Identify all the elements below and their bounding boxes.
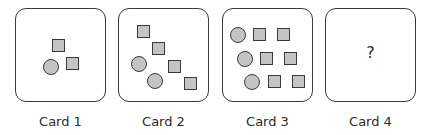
square-shape [268,75,281,88]
circle-shape [230,27,246,43]
square-shape [277,28,290,41]
square-shape [184,77,197,90]
question-mark: ? [326,43,415,62]
circle-shape [244,74,260,90]
card-4: ? [325,8,416,102]
square-shape [292,75,305,88]
circle-shape [43,59,59,75]
square-shape [284,52,297,65]
square-shape [52,39,65,52]
square-shape [253,28,266,41]
card-4-label: Card 4 [325,114,416,129]
square-shape [260,52,273,65]
square-shape [137,25,150,38]
square-shape [66,57,79,70]
card-3-label: Card 3 [222,114,313,129]
circle-shape [237,51,253,67]
card-1-label: Card 1 [15,114,106,129]
square-shape [168,60,181,73]
card-2 [118,8,209,102]
circle-shape [131,56,147,72]
card-3 [222,8,313,102]
card-1 [15,8,106,102]
circle-shape [147,73,163,89]
card-2-label: Card 2 [118,114,209,129]
square-shape [152,42,165,55]
